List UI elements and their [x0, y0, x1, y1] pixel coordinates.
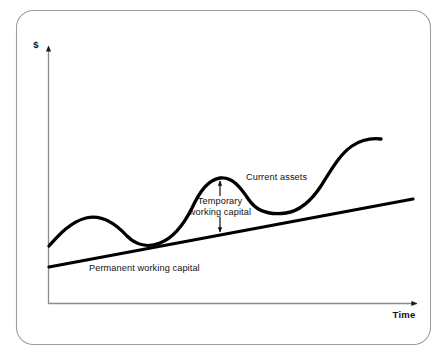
permanent-working-capital-label: Permanent working capital: [89, 263, 200, 273]
working-capital-diagram: $ Time Current assets Temporary working …: [0, 0, 448, 359]
temporary-working-capital-label-line2: working capital: [188, 207, 251, 217]
figure-root: $ Time Current assets Temporary working …: [0, 0, 448, 359]
current-assets-label: Current assets: [246, 172, 307, 182]
temporary-working-capital-label-line1: Temporary: [198, 196, 243, 206]
x-axis-label: Time: [393, 309, 416, 320]
y-axis-label: $: [33, 39, 39, 50]
